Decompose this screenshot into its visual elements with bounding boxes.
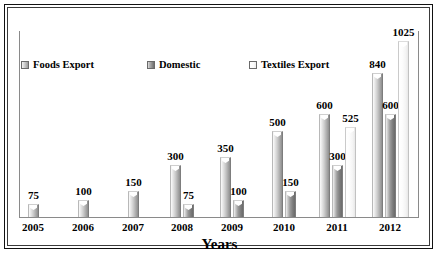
bar-top-notch — [334, 166, 341, 171]
chart-legend: Foods ExportDomesticTextiles Export — [21, 59, 321, 77]
axis-right-edge — [418, 31, 419, 218]
x-tick-label-2009: 2009 — [210, 221, 254, 233]
bar-top-notch — [374, 74, 381, 79]
bar-value-label: 840 — [362, 58, 394, 70]
chart-plot-area: Foods ExportDomesticTextiles Export 7510… — [5, 5, 434, 250]
legend-item-label: Domestic — [159, 59, 200, 70]
bar-swatch-foods-icon — [21, 61, 29, 69]
legend-item-foods-export[interactable]: Foods Export — [21, 59, 94, 70]
bar-top-notch — [222, 158, 229, 163]
bar-2006-foods-export[interactable] — [78, 200, 89, 217]
bar-2005-foods-export[interactable] — [28, 204, 39, 217]
bar-top-notch — [185, 205, 192, 210]
bar-value-label: 300 — [160, 150, 192, 162]
bar-2011-textiles-export[interactable] — [345, 127, 356, 217]
x-tick-label-2011: 2011 — [315, 221, 359, 233]
x-tick-label-2012: 2012 — [368, 221, 412, 233]
bar-top-notch — [321, 115, 328, 120]
bar-top-notch — [274, 132, 281, 137]
bar-top-notch — [347, 128, 354, 133]
bar-value-label: 100 — [223, 185, 255, 197]
x-axis-title: Years — [5, 236, 434, 253]
bar-value-label: 350 — [210, 142, 242, 154]
bar-top-notch — [387, 115, 394, 120]
bar-2007-foods-export[interactable] — [128, 191, 139, 217]
bar-2011-domestic[interactable] — [332, 165, 343, 217]
legend-item-domestic[interactable]: Domestic — [147, 59, 200, 70]
bar-top-notch — [172, 166, 179, 171]
bar-2008-domestic[interactable] — [183, 204, 194, 217]
bar-2012-foods-export[interactable] — [372, 73, 383, 217]
bar-top-notch — [287, 192, 294, 197]
chart-frame: Foods ExportDomesticTextiles Export 7510… — [4, 4, 433, 249]
x-tick-label-2007: 2007 — [111, 221, 155, 233]
bar-2011-foods-export[interactable] — [319, 114, 330, 217]
bar-value-label: 150 — [118, 176, 150, 188]
x-tick-label-2006: 2006 — [61, 221, 105, 233]
legend-item-label: Foods Export — [33, 59, 94, 70]
bar-2010-foods-export[interactable] — [272, 131, 283, 217]
x-tick-label-2005: 2005 — [11, 221, 55, 233]
x-tick-label-2008: 2008 — [160, 221, 204, 233]
bar-top-notch — [80, 201, 87, 206]
bar-2009-domestic[interactable] — [233, 200, 244, 217]
bar-top-notch — [130, 192, 137, 197]
bar-top-notch — [30, 205, 37, 210]
bar-2010-domestic[interactable] — [285, 191, 296, 217]
bar-value-label: 75 — [18, 189, 50, 201]
bar-value-label: 1025 — [388, 26, 420, 38]
bar-value-label: 150 — [275, 176, 307, 188]
bar-value-label: 600 — [309, 99, 341, 111]
legend-item-label: Textiles Export — [261, 59, 329, 70]
bar-value-label: 100 — [68, 185, 100, 197]
bar-top-notch — [400, 42, 407, 47]
bar-value-label: 75 — [173, 189, 205, 201]
bar-swatch-domestic-icon — [147, 61, 155, 69]
bar-value-label: 525 — [335, 112, 367, 124]
x-axis-line — [19, 217, 419, 218]
bar-top-notch — [235, 201, 242, 206]
bar-swatch-textiles-icon — [249, 61, 257, 69]
bar-2012-domestic[interactable] — [385, 114, 396, 217]
bar-value-label: 500 — [262, 116, 294, 128]
x-tick-label-2010: 2010 — [262, 221, 306, 233]
legend-item-textiles-export[interactable]: Textiles Export — [249, 59, 329, 70]
bar-2012-textiles-export[interactable] — [398, 41, 409, 217]
